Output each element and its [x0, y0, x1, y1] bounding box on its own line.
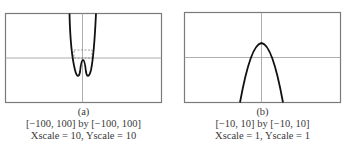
- caption-a: (a) [−100, 100] by [−100, 100] Xscale = …: [5, 106, 162, 142]
- window-range-b: [−10, 10] by [−10, 10]: [184, 118, 341, 130]
- viewing-window-a: [6, 14, 162, 103]
- viewing-window-b: [185, 13, 341, 103]
- panel-label-a: (a): [5, 106, 162, 118]
- scale-b: Xscale = 1, Yscale = 1: [184, 130, 341, 142]
- caption-b: (b) [−10, 10] by [−10, 10] Xscale = 1, Y…: [184, 106, 341, 142]
- window-range-a: [−100, 100] by [−100, 100]: [5, 118, 162, 130]
- scale-a: Xscale = 10, Yscale = 10: [5, 130, 162, 142]
- panel-label-b: (b): [184, 106, 341, 118]
